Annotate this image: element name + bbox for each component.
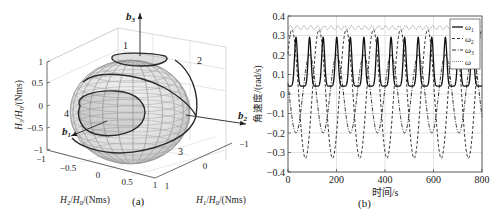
x-axis-title: H2/H0/(Nms) xyxy=(59,195,110,206)
legend-item-3: ω xyxy=(465,57,471,67)
y-tick-label: 0 xyxy=(280,89,285,100)
b1-label: b1 xyxy=(62,125,71,139)
y-tick-label: −0.1 xyxy=(267,108,285,119)
y-tick-label: −0.2 xyxy=(267,128,285,139)
y-tick-label: −0.3 xyxy=(267,147,285,158)
x-tick-label: 200 xyxy=(329,174,344,185)
y-tick-label: 0 xyxy=(203,161,208,171)
b3-label: b3 xyxy=(126,10,136,24)
x-tick-label: 0 xyxy=(286,174,291,185)
polhode-curve-1 xyxy=(112,53,167,66)
z-axis-title: H3/H0/(Nms) xyxy=(14,80,25,131)
z-tick-label: 1 xyxy=(39,57,44,67)
z-tick-label: −0.5 xyxy=(27,123,44,133)
y-axis-title: 角速度/(rad/s) xyxy=(252,65,264,122)
y-tick-label: 0.4 xyxy=(273,11,286,22)
x-tick-label: 800 xyxy=(475,174,490,185)
y-tick-label: −1 xyxy=(239,139,249,149)
z-tick xyxy=(47,127,50,128)
x-tick-label: 600 xyxy=(426,174,441,185)
panel-a-caption: (a) xyxy=(132,195,144,207)
x-axis-title: 时间/s xyxy=(372,186,399,198)
curve-label-1: 1 xyxy=(123,40,128,51)
panel-a-ellipsoid: b3b2b1123410.50−0.5−1−1−0.500.5110−1H3/H… xyxy=(0,0,250,219)
x-tick-label: 1 xyxy=(153,180,158,190)
z-tick xyxy=(47,61,50,62)
box-grid-line xyxy=(47,28,118,62)
angular-velocity-chart: 0200400600800−0.4−0.3−0.2−0.100.10.20.30… xyxy=(250,0,496,219)
y-tick-label: −0.4 xyxy=(267,167,285,178)
x-tick-label: 400 xyxy=(378,174,393,185)
panel-b-caption: (b) xyxy=(358,197,371,209)
z-tick-label: 0.5 xyxy=(32,78,44,88)
panel-b-angular-velocity: 0200400600800−0.4−0.3−0.2−0.100.10.20.30… xyxy=(250,0,496,219)
curve-label-3: 3 xyxy=(178,146,183,157)
z-tick xyxy=(47,82,50,83)
x-tick-label: −1 xyxy=(36,154,46,164)
x-tick-label: 0.5 xyxy=(121,177,133,187)
y-tick-label: 0.2 xyxy=(273,50,286,61)
y-axis-title: H1/H0/(Nms) xyxy=(195,195,246,206)
y-tick-label: 1 xyxy=(165,181,170,191)
y-tick-label: 0.1 xyxy=(273,69,286,80)
x-tick-label: −0.5 xyxy=(60,163,77,173)
z-tick xyxy=(47,105,50,106)
b3-axis-arrow-head xyxy=(138,13,143,19)
b2-label: b2 xyxy=(238,109,248,123)
ellipsoid-plot: b3b2b1123410.50−0.5−1−1−0.500.5110−1H3/H… xyxy=(0,0,250,219)
z-tick-label: 0 xyxy=(39,101,44,111)
x-tick-label: 0 xyxy=(96,170,101,180)
curve-label-2: 2 xyxy=(197,55,202,66)
curve-label-4: 4 xyxy=(64,108,69,119)
y-tick-label: 0.3 xyxy=(273,30,286,41)
